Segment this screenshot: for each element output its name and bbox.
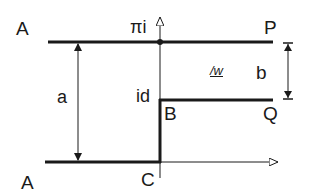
dimension-a-arrowhead-top	[74, 43, 82, 51]
label-c: C	[141, 170, 155, 189]
point-pi-i-dot	[157, 39, 163, 45]
label-angle-w: /w	[210, 64, 223, 77]
label-b-corner: B	[164, 104, 177, 123]
dimension-a-arrowhead-bottom	[74, 153, 82, 161]
label-p: P	[264, 18, 277, 37]
dimension-b-arrowhead-bottom	[284, 91, 292, 98]
label-a-bottom-left: A	[21, 173, 34, 192]
label-id: id	[136, 87, 150, 105]
label-dimension-b: b	[256, 63, 267, 82]
label-dimension-a: a	[57, 88, 67, 106]
dimension-b-arrowhead-top	[284, 44, 292, 51]
label-pi-i: πi	[130, 18, 146, 36]
label-q: Q	[263, 104, 278, 123]
label-a-top-left: A	[16, 19, 29, 38]
